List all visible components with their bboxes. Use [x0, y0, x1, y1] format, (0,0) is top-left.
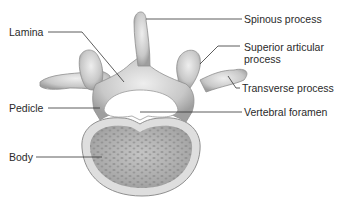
right-transverse-process	[200, 69, 247, 92]
label-transverse-process: Transverse process	[242, 82, 334, 94]
spinous-process	[134, 12, 150, 66]
vertebra-illustration	[0, 0, 340, 209]
superior-articular-leader	[200, 46, 240, 64]
label-body: Body	[9, 151, 33, 163]
label-superior-articular-process: Superior articular process	[244, 41, 332, 65]
label-spinous-process: Spinous process	[244, 13, 322, 25]
label-pedicle: Pedicle	[9, 102, 43, 114]
label-vertebral-foramen: Vertebral foramen	[244, 106, 327, 118]
posterior-arch	[40, 12, 247, 122]
vertebra-diagram: Spinous process Superior articular proce…	[0, 0, 340, 209]
label-lamina: Lamina	[9, 26, 43, 38]
